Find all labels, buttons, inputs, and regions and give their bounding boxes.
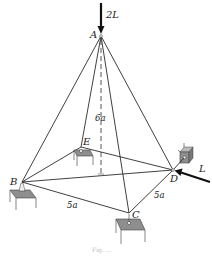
label-dim-CD: 5a: [154, 190, 164, 200]
label-dim-BC: 5a: [67, 200, 77, 210]
space-truss-diagram: A B C D E 2L L 6a 5a 5a Fig. ...: [0, 0, 212, 257]
member-BD: [22, 170, 173, 182]
label-joint-D: D: [169, 173, 178, 184]
label-joint-E: E: [82, 136, 91, 147]
member-AB: [22, 36, 101, 182]
support-E: [74, 149, 93, 166]
member-DE: [81, 147, 173, 170]
label-joint-B: B: [9, 176, 17, 187]
member-CD: [129, 170, 173, 213]
label-load-2L: 2L: [105, 9, 119, 20]
support-D: [173, 143, 193, 170]
label-dim-height: 6a: [95, 113, 105, 123]
label-joint-C: C: [132, 209, 140, 220]
member-EB: [22, 147, 81, 182]
label-load-L: L: [198, 163, 206, 174]
joint-A: [100, 35, 103, 38]
joint-D: [172, 169, 175, 172]
figure-caption: Fig. ...: [92, 246, 112, 254]
load-arrow-2L: [98, 3, 105, 34]
truss-members: [22, 36, 173, 213]
support-C: [116, 214, 145, 244]
label-joint-A: A: [89, 29, 97, 40]
member-AE: [81, 36, 101, 147]
support-B: [10, 183, 36, 210]
